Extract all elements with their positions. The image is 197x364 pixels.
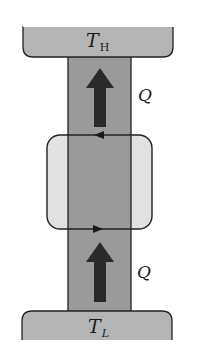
cold-temp-symbol: T	[88, 315, 101, 337]
heat-label-top: Q	[138, 87, 152, 104]
hot-temp-symbol: T	[86, 29, 99, 51]
cold-temp-subscript: L	[102, 327, 109, 340]
hot-reservoir-label: TH	[86, 31, 109, 50]
heat-flow-diagram	[0, 0, 197, 364]
heat-label-bottom: Q	[137, 264, 151, 281]
hot-temp-subscript: H	[100, 41, 110, 54]
cold-reservoir-label: TL	[88, 317, 109, 336]
